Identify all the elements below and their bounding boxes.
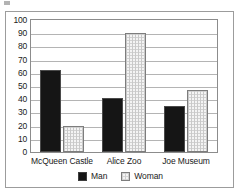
plot-area [30,19,218,153]
legend-item-woman[interactable]: Woman [121,172,163,181]
y-axis-tick-label: 10 [18,135,27,144]
legend-label: Man [91,172,107,181]
bar-man-0 [40,70,61,152]
y-axis-tick-label: 50 [18,82,27,91]
bar-woman-0 [63,126,84,152]
y-axis-tick-label: 100 [13,16,27,25]
scan-artifact-speck [4,1,10,5]
legend-swatch-woman-icon [121,172,130,181]
y-axis-tick-label: 0 [22,148,27,157]
x-axis-category-labels: McQueen CastleAlice ZooJoe Museum [30,156,218,168]
legend-swatch-man-icon [78,172,87,181]
x-axis-category-label: Joe Museum [162,156,210,167]
y-axis-tick-label: 20 [18,121,27,130]
y-axis-tick-labels: 0102030405060708090100 [6,19,27,153]
bar-woman-2 [187,90,208,152]
chart-figure-frame: 0102030405060708090100 McQueen CastleAli… [5,11,234,188]
legend-item-man[interactable]: Man [78,172,107,181]
bar-man-2 [164,106,185,152]
y-axis-tick-label: 30 [18,108,27,117]
bar-man-1 [102,98,123,152]
x-axis-category-label: McQueen Castle [31,156,93,167]
y-axis-tick-label: 60 [18,69,27,78]
bars-layer [31,20,217,152]
y-axis-tick-label: 90 [18,29,27,38]
legend-label: Woman [134,172,163,181]
bar-chart: 0102030405060708090100 McQueen CastleAli… [6,12,235,189]
y-axis-tick-label: 80 [18,42,27,51]
bar-woman-1 [125,33,146,152]
y-axis-tick-label: 40 [18,95,27,104]
chart-legend: ManWoman [6,172,235,181]
x-axis-category-label: Alice Zoo [107,156,142,167]
y-axis-tick-label: 70 [18,55,27,64]
